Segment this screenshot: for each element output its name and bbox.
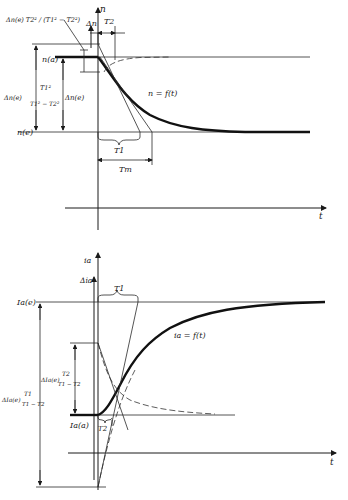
t1-label-bottom: T1 — [114, 284, 124, 293]
t-axis-label-bottom: t — [330, 457, 334, 467]
top-diagram: n Δn t n(a) n(e) n = f(t) T2 T1 Tm Δn(e)… — [3, 4, 326, 230]
lower-term-den: T1 − T2 — [22, 401, 45, 407]
overshoot-component — [104, 57, 170, 72]
t2-label: T2 — [104, 17, 114, 26]
upper-term-num: T2 — [62, 370, 70, 377]
delta-ia-axis-label: Δia — [79, 276, 92, 285]
n-curve-label: n = f(t) — [148, 89, 177, 98]
n-final-label: n(e) — [17, 128, 33, 137]
ia-final-label: Ia(e) — [16, 298, 36, 307]
n-curve — [98, 57, 310, 132]
decaying-component — [98, 343, 215, 414]
lower-term-prefix: ΔIa(e) — [1, 396, 21, 403]
bottom-diagram: ia Δia t Ia(e) Ia(a) ia = f(t) T1 T2 ΔIa… — [1, 253, 336, 490]
ia-curve-label: ia = f(t) — [174, 331, 206, 340]
left-term-den: T1² − T2² — [30, 100, 60, 107]
upper-term-den: T1 − T2 — [58, 381, 81, 387]
diagram-canvas: n Δn t n(a) n(e) n = f(t) T2 T1 Tm Δn(e)… — [0, 0, 348, 500]
delta-n-axis-label: Δn — [85, 19, 97, 28]
n-initial-label: n(a) — [42, 55, 58, 64]
left-term-prefix: Δn(e) — [3, 94, 22, 102]
ia-initial-label: Ia(a) — [69, 421, 89, 430]
t2-label-bottom: T2 — [98, 425, 108, 433]
t2-bracket-bottom — [98, 415, 112, 423]
ia-curve — [98, 302, 325, 415]
delta-n-label: Δn(e) — [64, 94, 84, 102]
t1-label: T1 — [114, 146, 124, 155]
tm-label: Tm — [119, 165, 132, 174]
overshoot-formula: Δn(e) T2² / (T1² − T2²) — [5, 16, 81, 24]
t-axis-label: t — [319, 211, 323, 221]
t1-bracket — [98, 132, 140, 145]
tangent-tm — [100, 57, 152, 132]
left-term-num: T1² — [40, 84, 51, 92]
tangent-t1-bottom — [98, 302, 138, 487]
n-axis-label: n — [100, 4, 106, 14]
lower-term-num: T1 — [24, 390, 32, 397]
ia-axis-label: ia — [84, 256, 92, 265]
